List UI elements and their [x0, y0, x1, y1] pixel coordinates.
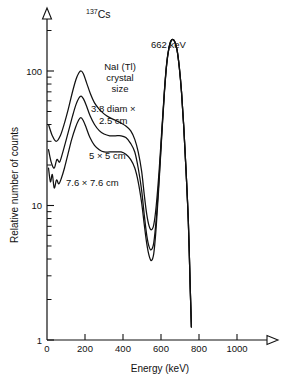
x-axis-tick-labels: 02004006008001000 — [44, 343, 247, 354]
y-axis-title: Relative number of counts — [9, 127, 20, 243]
curve-label-small-line2: 2.5 cm — [99, 115, 128, 126]
x-tick-label-0: 0 — [44, 343, 49, 354]
crystal-size-header-line2: crystal — [106, 72, 133, 83]
y-tick-label-1: 1 — [37, 335, 42, 346]
photopeak-label: 662 keV — [151, 39, 187, 50]
x-tick-label-800: 800 — [191, 343, 207, 354]
spectrum-plot: 110100 02004006008001000 137Cs 662 keV N… — [0, 0, 286, 380]
curve-label-large: 7.6 × 7.6 cm — [66, 177, 119, 188]
x-tick-label-200: 200 — [77, 343, 93, 354]
y-axis-tick-labels: 110100 — [26, 66, 42, 346]
chart-title: 137Cs — [86, 8, 111, 20]
crystal-size-header-line3: size — [112, 83, 129, 94]
x-axis-ticks — [85, 334, 237, 340]
x-tick-label-1000: 1000 — [226, 343, 247, 354]
y-tick-label-10: 10 — [31, 200, 42, 211]
x-tick-label-400: 400 — [115, 343, 131, 354]
y-axis-arrowhead — [43, 8, 52, 19]
x-axis-arrowhead — [267, 336, 278, 345]
curve-label-medium: 5 × 5 cm — [89, 150, 126, 161]
x-tick-label-600: 600 — [153, 343, 169, 354]
spectrum-figure: 110100 02004006008001000 137Cs 662 keV N… — [0, 0, 286, 380]
curve-label-small-line1: 3.8 diam × — [91, 103, 136, 114]
crystal-size-header-line1: NaI (Tl) — [104, 61, 136, 72]
y-tick-label-100: 100 — [26, 66, 42, 77]
y-axis-ticks — [47, 31, 54, 340]
x-axis-title: Energy (keV) — [131, 363, 189, 374]
